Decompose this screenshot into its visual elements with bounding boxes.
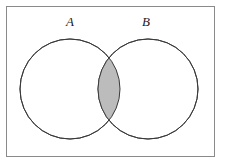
set-a-label: A	[65, 14, 74, 29]
set-b-label: B	[142, 14, 150, 29]
venn-diagram-canvas: A B	[0, 0, 225, 166]
venn-diagram-figure: A B	[0, 0, 225, 166]
